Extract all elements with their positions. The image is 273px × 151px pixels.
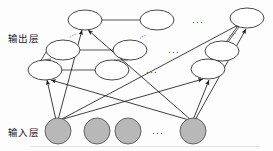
ellipsis-middle-row: ... [168,45,180,55]
output-node-o8[interactable] [95,60,129,80]
output-node-o9[interactable] [191,59,225,79]
output-layer-row-3 [28,59,225,80]
output-layer-label: 输出层 [8,31,39,45]
input-layer [45,118,206,144]
output-node-o6[interactable] [205,41,239,61]
input-node-i4[interactable] [180,118,206,144]
output-node-o4[interactable] [46,40,80,60]
output-node-o1[interactable] [68,10,102,30]
output-node-o7[interactable] [28,60,62,80]
network-graph [0,0,273,151]
output-node-o2[interactable] [140,10,174,30]
neural-network-diagram: 输出层 输入层 ... ... ... ... ... ... ... [0,0,273,151]
input-node-i2[interactable] [84,118,110,144]
ellipsis-bottom-row: ... [146,65,158,75]
edge-i1-o7 [47,80,56,120]
bottom-divider [30,146,260,147]
output-node-o3[interactable] [230,8,264,28]
input-layer-label: 输入层 [8,125,39,139]
input-node-i1[interactable] [45,118,71,144]
edge-i1-o9 [60,79,203,120]
output-node-o5[interactable] [113,40,147,60]
input-node-i3[interactable] [115,118,141,144]
ellipsis-input-row: ... [152,126,164,136]
ellipsis-top-row: ... [192,15,204,25]
